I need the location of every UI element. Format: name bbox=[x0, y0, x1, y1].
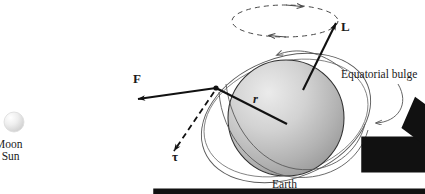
label-angular-momentum-L: L bbox=[341, 18, 350, 34]
label-L-text: L bbox=[341, 19, 350, 34]
label-sun: r Sun bbox=[0, 151, 20, 163]
vector-F-arrow bbox=[138, 88, 216, 99]
bulge-leader-line-right bbox=[376, 84, 403, 123]
force-application-point bbox=[213, 85, 218, 90]
label-moon: Moon bbox=[0, 139, 22, 151]
vector-tau-arrow bbox=[174, 92, 214, 151]
label-equatorial-bulge: Equatorial bulge bbox=[341, 69, 417, 81]
moon-or-sun-sphere bbox=[4, 112, 24, 132]
precession-path bbox=[232, 5, 338, 37]
diagram-canvas bbox=[0, 0, 425, 194]
label-earth: Earth bbox=[272, 179, 297, 191]
label-torque-tau: τ bbox=[172, 148, 178, 164]
label-F-text: F bbox=[133, 71, 141, 86]
label-r-text: r bbox=[253, 92, 258, 106]
earth-sphere bbox=[228, 60, 344, 176]
label-force-F: F bbox=[133, 70, 141, 86]
label-radius-r: r bbox=[253, 90, 258, 106]
label-tau-text: τ bbox=[172, 149, 178, 164]
precession-diagram: L F τ bbox=[0, 0, 425, 194]
